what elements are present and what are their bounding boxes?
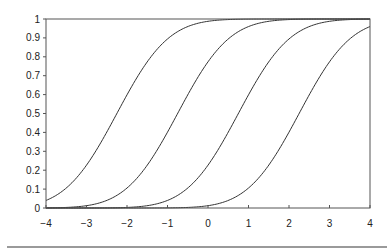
- plot-frame: [46, 19, 370, 208]
- curve-1-line: [46, 19, 370, 200]
- x-axis: −4−3−2−101234: [40, 205, 373, 229]
- curve-series-group: [46, 19, 370, 208]
- y-tick-label: 0.2: [26, 165, 40, 176]
- x-tick-label: 3: [327, 218, 333, 229]
- y-tick-label: 0.9: [26, 32, 40, 43]
- y-tick-label: 0.4: [26, 127, 40, 138]
- x-tick-label: −1: [162, 218, 174, 229]
- x-tick-label: 4: [367, 218, 373, 229]
- x-tick-label: 1: [246, 218, 252, 229]
- x-tick-label: 0: [205, 218, 211, 229]
- curve-3-line: [46, 19, 370, 208]
- sigmoid-chart: 00.10.20.30.40.50.60.70.80.91 −4−3−2−101…: [0, 0, 389, 249]
- y-tick-label: 0.7: [26, 70, 40, 81]
- y-tick-label: 0.6: [26, 89, 40, 100]
- y-tick-label: 0.3: [26, 146, 40, 157]
- x-tick-label: 2: [286, 218, 292, 229]
- curve-2-line: [46, 19, 370, 208]
- bottom-separator-line: [7, 246, 387, 248]
- x-tick-label: −2: [121, 218, 133, 229]
- y-tick-label: 0: [34, 203, 40, 214]
- curve-4-line: [46, 27, 370, 208]
- x-tick-label: −4: [40, 218, 52, 229]
- y-tick-label: 0.1: [26, 184, 40, 195]
- y-tick-label: 0.5: [26, 108, 40, 119]
- x-tick-label: −3: [81, 218, 93, 229]
- y-tick-label: 1: [34, 14, 40, 25]
- y-tick-label: 0.8: [26, 51, 40, 62]
- y-axis: 00.10.20.30.40.50.60.70.80.91: [26, 14, 46, 214]
